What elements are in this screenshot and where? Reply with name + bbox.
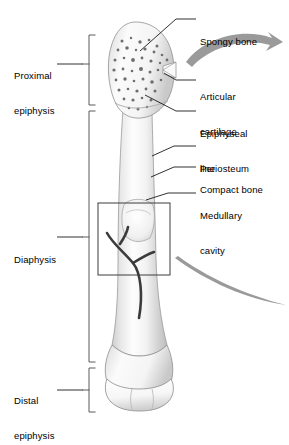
bone-body bbox=[105, 22, 176, 411]
label-medullary-cavity-line2: cavity bbox=[200, 245, 242, 257]
leader-compact-bone bbox=[151, 167, 196, 177]
label-proximal-epiphysis-line1: Proximal bbox=[14, 70, 55, 82]
label-proximal-epiphysis-line2: epiphysis bbox=[14, 105, 55, 117]
label-epiphyseal-line-line1: Epiphyseal bbox=[200, 128, 247, 140]
label-distal-epiphysis-line1: Distal bbox=[14, 395, 55, 407]
label-distal-epiphysis: Distal epiphysis bbox=[14, 372, 55, 445]
region-brackets bbox=[83, 35, 95, 412]
label-proximal-epiphysis: Proximal epiphysis bbox=[14, 47, 55, 139]
label-spongy-bone-line1: Spongy bone bbox=[200, 36, 257, 48]
label-medullary-cavity: Medullary cavity bbox=[200, 187, 242, 279]
label-diaphysis: Diaphysis bbox=[14, 231, 56, 289]
label-distal-epiphysis-line2: epiphysis bbox=[14, 430, 55, 442]
region-leader-lines bbox=[57, 64, 83, 390]
label-medullary-cavity-line1: Medullary bbox=[200, 210, 242, 222]
medullary-cavity-cutaway bbox=[122, 199, 155, 241]
bracket-proximal bbox=[89, 35, 95, 105]
label-diaphysis-line1: Diaphysis bbox=[14, 254, 56, 266]
label-spongy-bone: Spongy bone bbox=[200, 13, 257, 71]
label-articular-cartilage-line1: Articular bbox=[200, 91, 237, 103]
leader-periosteum bbox=[152, 146, 196, 156]
bracket-diaphysis bbox=[89, 111, 95, 362]
bracket-distal bbox=[89, 368, 95, 412]
